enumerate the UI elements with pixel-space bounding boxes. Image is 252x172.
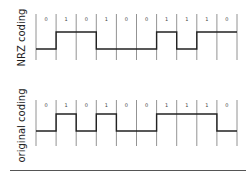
- bit-label: 0: [145, 102, 148, 108]
- bit-label: 0: [125, 102, 128, 108]
- bit-label: 1: [205, 16, 208, 22]
- nrz-waveform: 0101001110: [36, 14, 237, 60]
- bit-label: 0: [145, 16, 148, 22]
- bit-label: 1: [205, 102, 208, 108]
- bit-label: 0: [44, 102, 47, 108]
- bit-label: 1: [65, 16, 68, 22]
- bit-label: 0: [85, 102, 88, 108]
- bit-label: 0: [85, 16, 88, 22]
- bit-label: 1: [165, 102, 168, 108]
- bit-label: 0: [44, 16, 47, 22]
- bottom-divider: [10, 170, 246, 171]
- bit-label: 0: [225, 16, 228, 22]
- bit-label: 1: [105, 102, 108, 108]
- original-waveform: 0101001110: [36, 100, 237, 146]
- bit-label: 1: [185, 16, 188, 22]
- signal-diagram: 01010011100101001110: [0, 0, 252, 172]
- bit-label: 0: [125, 16, 128, 22]
- bit-label: 0: [225, 102, 228, 108]
- bit-label: 1: [165, 16, 168, 22]
- bit-label: 1: [65, 102, 68, 108]
- bit-label: 1: [185, 102, 188, 108]
- bit-label: 1: [105, 16, 108, 22]
